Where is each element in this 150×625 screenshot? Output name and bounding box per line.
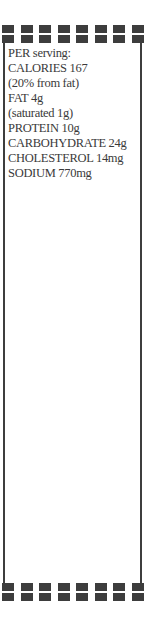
square-icon	[58, 593, 70, 601]
top-squares-row-1	[2, 25, 144, 33]
square-icon	[95, 25, 107, 33]
nutrition-calories: CALORIES 167	[8, 61, 126, 76]
square-icon	[39, 593, 51, 601]
bottom-squares-row-2	[2, 593, 144, 601]
nutrition-calories-from-fat: (20% from fat)	[8, 76, 126, 91]
nutrition-protein: PROTEIN 10g	[8, 121, 126, 136]
nutrition-heading: PER serving:	[8, 46, 126, 61]
square-icon	[21, 593, 33, 601]
square-icon	[2, 25, 14, 33]
nutrition-saturated-fat: (saturated 1g)	[8, 106, 126, 121]
square-icon	[39, 583, 51, 591]
nutrition-carbohydrate: CARBOHYDRATE 24g	[8, 136, 126, 151]
square-icon	[76, 25, 88, 33]
square-icon	[113, 25, 125, 33]
square-icon	[113, 583, 125, 591]
square-icon	[76, 593, 88, 601]
bottom-squares-row-1	[2, 583, 144, 591]
square-icon	[58, 583, 70, 591]
nutrition-fat: FAT 4g	[8, 91, 126, 106]
square-icon	[132, 583, 144, 591]
square-icon	[132, 25, 144, 33]
square-icon	[21, 25, 33, 33]
square-icon	[95, 593, 107, 601]
square-icon	[76, 583, 88, 591]
nutrition-sodium: SODIUM 770mg	[8, 166, 126, 181]
square-icon	[39, 25, 51, 33]
square-icon	[113, 593, 125, 601]
square-icon	[21, 583, 33, 591]
nutrition-facts-list: PER serving: CALORIES 167 (20% from fat)…	[8, 46, 126, 181]
square-icon	[58, 25, 70, 33]
square-icon	[132, 593, 144, 601]
nutrition-cholesterol: CHOLESTEROL 14mg	[8, 151, 126, 166]
square-icon	[2, 593, 14, 601]
square-icon	[95, 583, 107, 591]
square-icon	[2, 583, 14, 591]
